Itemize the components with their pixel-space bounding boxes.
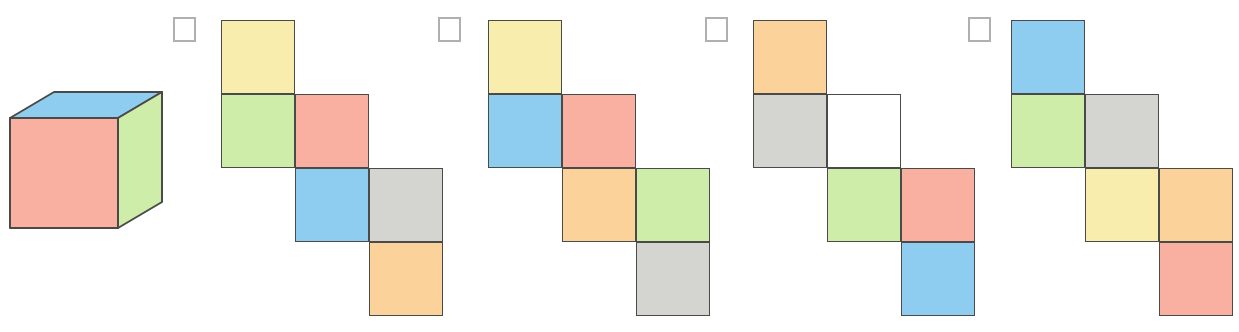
cube-face-front bbox=[10, 118, 118, 228]
net-cell-pink bbox=[901, 168, 975, 242]
checkbox-option-a[interactable] bbox=[173, 17, 196, 42]
net-cell-green bbox=[221, 94, 295, 168]
reference-cube bbox=[8, 90, 168, 242]
net-cell-blue bbox=[488, 94, 562, 168]
net-cell-pink bbox=[295, 94, 369, 168]
net-cell-green bbox=[1011, 94, 1085, 168]
net-cell-yellow bbox=[221, 20, 295, 94]
net-cell-white bbox=[827, 94, 901, 168]
net-cell-orange bbox=[369, 242, 443, 316]
checkbox-option-d[interactable] bbox=[968, 17, 991, 42]
net-cell-pink bbox=[562, 94, 636, 168]
net-cell-yellow bbox=[1085, 168, 1159, 242]
net-cell-green bbox=[827, 168, 901, 242]
net-cell-gray bbox=[369, 168, 443, 242]
net-cell-blue bbox=[1011, 20, 1085, 94]
checkbox-option-c[interactable] bbox=[705, 17, 728, 42]
net-cell-blue bbox=[295, 168, 369, 242]
net-cell-orange bbox=[1159, 168, 1233, 242]
net-cell-gray bbox=[1085, 94, 1159, 168]
net-cell-orange bbox=[753, 20, 827, 94]
net-cell-blue bbox=[901, 242, 975, 316]
net-cell-gray bbox=[753, 94, 827, 168]
question-canvas bbox=[0, 0, 1239, 332]
clipped-header-text bbox=[0, 0, 1239, 2]
net-cell-orange bbox=[562, 168, 636, 242]
net-cell-gray bbox=[636, 242, 710, 316]
net-cell-pink bbox=[1159, 242, 1233, 316]
net-cell-green bbox=[636, 168, 710, 242]
net-cell-yellow bbox=[488, 20, 562, 94]
checkbox-option-b[interactable] bbox=[438, 17, 461, 42]
